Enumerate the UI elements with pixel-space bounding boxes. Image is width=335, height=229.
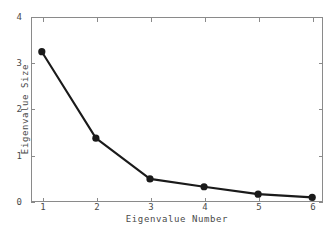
x-tick-label-1: 1 <box>33 203 53 212</box>
x-axis-title: Eigenvalue Number <box>31 214 323 224</box>
y-tick-label-0: 0 <box>8 198 22 207</box>
data-point-3 <box>146 175 153 182</box>
data-series-layer <box>31 17 323 202</box>
data-point-6 <box>309 194 316 201</box>
x-tick-label-3: 3 <box>141 203 161 212</box>
data-point-1 <box>38 48 45 55</box>
x-tick-label-2: 2 <box>87 203 107 212</box>
data-point-4 <box>200 183 207 190</box>
y-tick-label-4: 4 <box>8 13 22 22</box>
data-point-2 <box>92 135 99 142</box>
x-tick-label-6: 6 <box>303 203 323 212</box>
data-point-5 <box>255 191 262 198</box>
x-tick-label-5: 5 <box>249 203 269 212</box>
series-line-eigenvalues <box>42 52 312 198</box>
scree-plot-figure: 4 3 2 1 0 1 2 3 4 5 6 Eigenvalue Number … <box>0 0 335 229</box>
y-axis-title: Eigenvalue Size <box>20 24 30 194</box>
x-tick-label-4: 4 <box>195 203 215 212</box>
series-markers <box>38 48 316 201</box>
